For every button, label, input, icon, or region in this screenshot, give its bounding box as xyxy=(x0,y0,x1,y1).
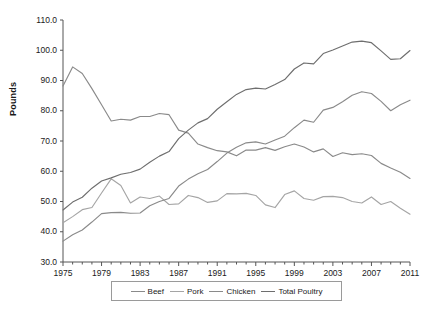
legend-line-swatch xyxy=(170,291,184,292)
legend-label: Beef xyxy=(148,287,164,296)
series-line-total-poultry xyxy=(63,41,410,210)
chart-legend: BeefPorkChickenTotal Poultry xyxy=(111,281,342,301)
series-line-chicken xyxy=(63,92,410,241)
series-line-pork xyxy=(63,179,410,223)
legend-item[interactable]: Total Poultry xyxy=(258,287,325,296)
legend-item[interactable]: Pork xyxy=(167,287,206,296)
axis-spines xyxy=(63,20,410,262)
legend-label: Pork xyxy=(187,287,203,296)
legend-label: Chicken xyxy=(226,287,255,296)
x-axis-ticks xyxy=(63,262,410,266)
legend-line-swatch xyxy=(209,291,223,292)
plot-area xyxy=(0,0,430,315)
legend-label: Total Poultry xyxy=(278,287,322,296)
legend-line-swatch xyxy=(261,291,275,292)
series-line-beef xyxy=(63,67,410,179)
chart-figure: Pounds 30.040.050.060.070.080.090.0100.0… xyxy=(0,0,430,315)
legend-item[interactable]: Beef xyxy=(128,287,167,296)
legend-line-swatch xyxy=(131,291,145,292)
legend-item[interactable]: Chicken xyxy=(206,287,258,296)
